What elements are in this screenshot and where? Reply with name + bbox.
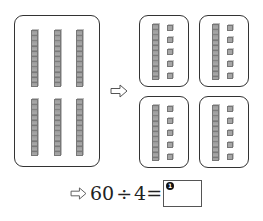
ones-cube <box>167 118 173 124</box>
ones-cube <box>167 61 173 67</box>
answer-box[interactable]: 1 <box>163 180 202 207</box>
ones-cube <box>227 49 233 55</box>
ones-cube <box>167 49 173 55</box>
tens-rod <box>76 99 83 156</box>
ones-cube <box>167 106 173 112</box>
tens-rod <box>76 30 83 87</box>
ones-cube <box>227 130 233 136</box>
tens-rod <box>152 105 159 161</box>
ones-cube <box>167 73 173 79</box>
division-operator: ÷ <box>116 182 132 204</box>
answer-marker-1: 1 <box>166 182 174 190</box>
ones-cube <box>167 25 173 31</box>
ones-cube <box>227 142 233 148</box>
ones-cube <box>227 61 233 67</box>
tens-rod <box>31 30 38 87</box>
group-box-4 <box>199 96 249 168</box>
tens-rod <box>54 30 61 87</box>
group-box-2 <box>199 15 249 87</box>
tens-rod <box>54 99 61 156</box>
ones-cube <box>167 130 173 136</box>
group-box-3 <box>139 96 189 168</box>
right-arrow-icon <box>110 84 128 98</box>
equals-sign: = <box>146 182 162 204</box>
ones-cube <box>227 154 233 160</box>
ones-cube <box>227 106 233 112</box>
tens-rod <box>212 24 219 80</box>
division-equation: 60 ÷ 4 = 1 <box>70 178 202 208</box>
ones-cube <box>167 154 173 160</box>
ones-cube <box>227 73 233 79</box>
divisor: 4 <box>134 182 146 204</box>
dividend: 60 <box>90 182 114 204</box>
ones-cube <box>227 118 233 124</box>
left-group-box <box>14 15 100 167</box>
ones-cube <box>167 142 173 148</box>
tens-rod <box>31 99 38 156</box>
tens-rod <box>152 24 159 80</box>
ones-cube <box>227 37 233 43</box>
right-arrow-icon <box>70 187 87 200</box>
tens-rod <box>212 105 219 161</box>
group-box-1 <box>139 15 189 87</box>
ones-cube <box>167 37 173 43</box>
ones-cube <box>227 25 233 31</box>
